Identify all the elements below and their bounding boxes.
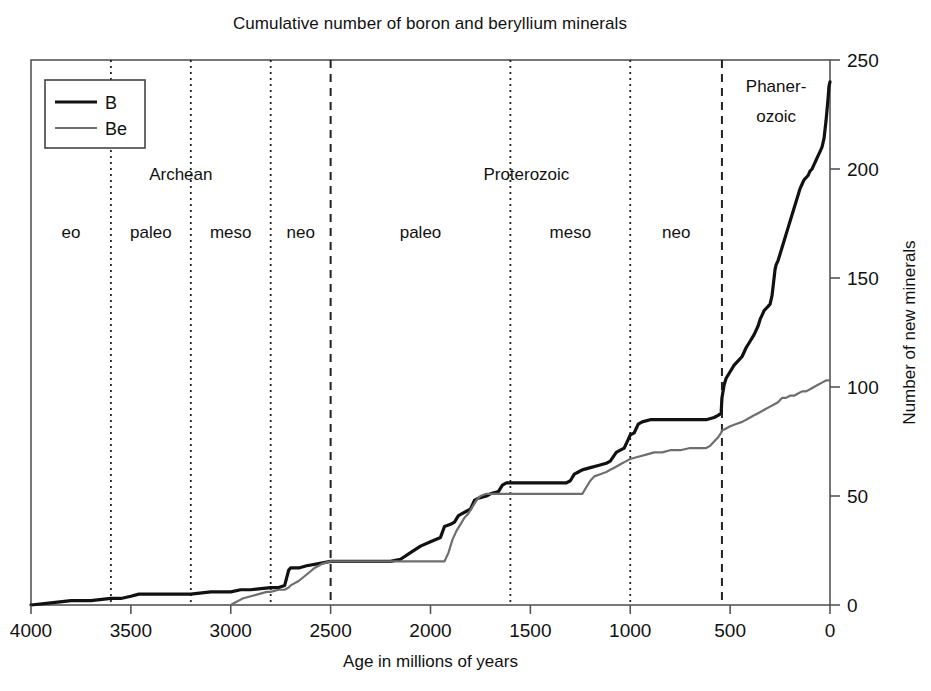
y-tick-label: 100	[847, 377, 879, 398]
sub-era-label: paleo	[400, 223, 442, 242]
x-axis-title: Age in millions of years	[343, 652, 518, 671]
y-tick-label: 200	[847, 159, 879, 180]
sub-era-label: meso	[550, 223, 592, 242]
y-axis-title: Number of new minerals	[900, 240, 919, 424]
legend-box	[45, 80, 145, 148]
era-label: Archean	[149, 165, 212, 184]
x-tick-label: 1000	[609, 620, 651, 641]
sub-era-label: eo	[61, 223, 80, 242]
y-tick-label: 50	[847, 486, 868, 507]
x-tick-label: 2000	[409, 620, 451, 641]
sub-era-label: paleo	[130, 223, 172, 242]
sub-era-label: meso	[210, 223, 252, 242]
plot-frame	[31, 60, 830, 605]
sub-era-label: neo	[662, 223, 690, 242]
x-tick-label: 0	[825, 620, 836, 641]
era-label: ozoic	[756, 107, 796, 126]
x-tick-label: 3500	[110, 620, 152, 641]
legend-label-be: Be	[105, 119, 127, 139]
y-tick-label: 0	[847, 595, 858, 616]
y-tick-label: 250	[847, 50, 879, 71]
y-tick-label: 150	[847, 268, 879, 289]
sub-era-label: neo	[286, 223, 314, 242]
chart-figure: Cumulative number of boron and beryllium…	[0, 0, 931, 691]
x-tick-label: 4000	[10, 620, 52, 641]
x-tick-label: 2500	[309, 620, 351, 641]
x-tick-label: 3000	[210, 620, 252, 641]
era-label: Proterozoic	[483, 165, 569, 184]
x-tick-label: 500	[714, 620, 746, 641]
era-label: Phaner-	[746, 77, 806, 96]
chart-plot-area: ArcheanProterozoicPhaner-ozoiceopaleomes…	[0, 0, 931, 691]
series-line-b	[31, 82, 830, 605]
series-line-be	[231, 380, 830, 605]
legend-label-b: B	[105, 93, 117, 113]
x-tick-label: 1500	[509, 620, 551, 641]
